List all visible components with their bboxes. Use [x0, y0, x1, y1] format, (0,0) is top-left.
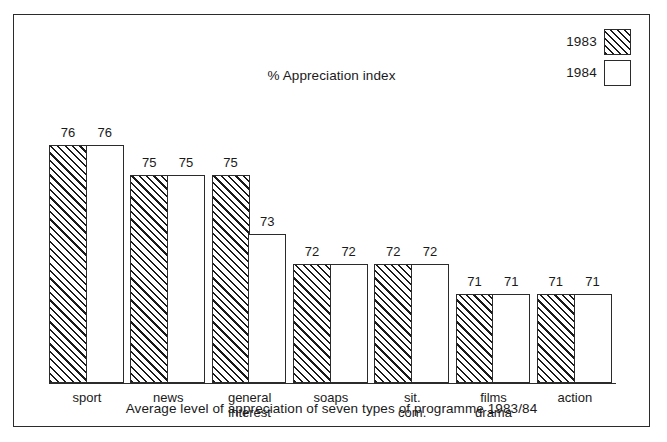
bar-value-label: 71 — [467, 274, 481, 289]
bar-group: 7272soaps — [293, 264, 369, 383]
x-axis-baseline — [49, 383, 616, 384]
bar-value-label: 76 — [61, 125, 75, 140]
bar-1983[interactable]: 76 — [49, 145, 87, 382]
bar-group: 7171action — [537, 294, 613, 383]
chart-title: % Appreciation index — [14, 68, 649, 83]
bar-1984[interactable]: 76 — [86, 145, 124, 382]
bar-value-label: 75 — [223, 155, 237, 170]
bar-value-label: 71 — [585, 274, 599, 289]
bar-group: 7171films drama — [456, 294, 532, 383]
bar-group: 7676sport — [49, 145, 125, 382]
bar-1984[interactable]: 71 — [492, 294, 530, 383]
bar-value-label: 71 — [504, 274, 518, 289]
plot-area: 7676sport7575news7573general interest727… — [49, 103, 616, 384]
bar-1983[interactable]: 75 — [212, 175, 250, 383]
chart-caption: Average level of appreciation of seven t… — [14, 401, 649, 416]
bar-1983[interactable]: 75 — [130, 175, 168, 383]
bar-value-label: 72 — [386, 244, 400, 259]
bar-group: 7573general interest — [212, 175, 288, 383]
chart-frame: 1983 1984 % Appreciation index 7676sport… — [13, 14, 650, 427]
bar-value-label: 75 — [179, 155, 193, 170]
bar-group: 7272sit. com. — [374, 264, 450, 383]
bar-value-label: 75 — [142, 155, 156, 170]
bar-value-label: 73 — [260, 214, 274, 229]
bar-value-label: 72 — [423, 244, 437, 259]
bar-value-label: 72 — [305, 244, 319, 259]
bar-1983[interactable]: 72 — [374, 264, 412, 383]
bar-1984[interactable]: 72 — [330, 264, 368, 383]
bar-1983[interactable]: 71 — [456, 294, 494, 383]
bar-1984[interactable]: 71 — [574, 294, 612, 383]
hatched-swatch — [604, 29, 631, 55]
legend-item-1983[interactable]: 1983 — [566, 29, 631, 55]
bar-1984[interactable]: 75 — [167, 175, 205, 383]
bar-1984[interactable]: 73 — [248, 234, 286, 382]
bar-group: 7575news — [130, 175, 206, 383]
bar-value-label: 76 — [97, 125, 111, 140]
bar-1983[interactable]: 72 — [293, 264, 331, 383]
legend-label-1983: 1983 — [566, 35, 597, 49]
bar-1983[interactable]: 71 — [537, 294, 575, 383]
bar-value-label: 72 — [341, 244, 355, 259]
bar-value-label: 71 — [549, 274, 563, 289]
bar-1984[interactable]: 72 — [411, 264, 449, 383]
